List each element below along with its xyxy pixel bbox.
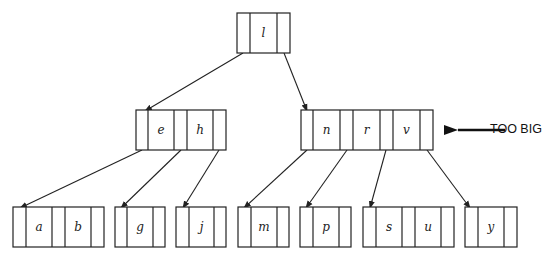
key-s: s: [386, 220, 392, 234]
edge-nrv-to-leaf-p: [306, 150, 347, 208]
edge-root-to-left: [145, 53, 243, 111]
leaf-node-m: m: [238, 207, 289, 247]
edge-nrv-to-leaf-y: [427, 150, 470, 208]
leaf-node-y: y: [465, 207, 517, 247]
key-b: b: [74, 220, 82, 234]
key-y: y: [487, 220, 495, 234]
leaf-node-s-u: s u: [363, 207, 454, 247]
key-h: h: [196, 123, 204, 137]
b-tree-diagram: l e h n r v: [0, 0, 549, 261]
leaf-node-a-b: a b: [13, 207, 104, 247]
too-big-label: TOO BIG: [490, 122, 542, 136]
left-internal-node: e h: [136, 110, 226, 150]
key-n: n: [323, 123, 331, 137]
key-p: p: [322, 220, 330, 234]
key-g: g: [136, 220, 144, 234]
edge-nrv-to-leaf-m: [244, 150, 307, 208]
edge-e-h-to-leaf-g: [121, 150, 181, 208]
tree-svg: l e h n r v: [0, 0, 549, 261]
leaf-node-j: j: [176, 207, 226, 247]
key-m: m: [258, 220, 269, 234]
key-v: v: [403, 123, 410, 137]
leaf-node-g: g: [115, 207, 165, 247]
key-a: a: [35, 220, 42, 234]
key-e: e: [157, 123, 164, 137]
key-l: l: [262, 26, 266, 40]
edge-root-to-right: [284, 53, 307, 111]
leaf-node-p: p: [300, 207, 351, 247]
edge-e-h-to-leaf-ab: [20, 150, 142, 208]
edge-e-h-to-leaf-j: [183, 150, 219, 208]
root-node: l: [237, 13, 290, 53]
right-internal-node: n r v: [301, 110, 433, 150]
edge-nrv-to-leaf-su: [370, 150, 386, 208]
key-u: u: [424, 220, 432, 234]
